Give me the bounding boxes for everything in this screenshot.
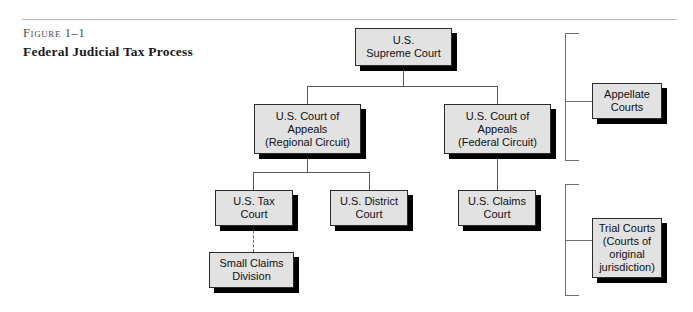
edge-trial-bus — [253, 172, 369, 173]
header-divider — [22, 19, 677, 20]
edge-bus-to-tax-court — [253, 172, 254, 190]
figure-page: Figure 1–1 Federal Judicial Tax Process … — [0, 0, 693, 312]
bracket-stub-trial-courts — [565, 240, 592, 241]
bracket-appellate-courts — [565, 33, 579, 161]
node-label: U.S. Court of Appeals (Federal Circuit) — [455, 110, 540, 149]
node-label: U.S. Claims Court — [465, 195, 529, 221]
edge-tax-to-small-claims — [253, 226, 254, 252]
node-appeals-regional[interactable]: U.S. Court of Appeals (Regional Circuit) — [254, 104, 361, 154]
node-label: U.S. Tax Court — [230, 195, 277, 221]
figure-number: Figure 1–1 — [23, 26, 85, 41]
node-supreme-court[interactable]: U.S. Supreme Court — [355, 28, 452, 66]
edge-bus-to-district-court — [369, 172, 370, 190]
figure-title: Federal Judicial Tax Process — [23, 44, 193, 60]
node-tax-court[interactable]: U.S. Tax Court — [215, 190, 293, 226]
node-label: Small Claims Division — [216, 257, 286, 283]
node-label: U.S. District Court — [337, 195, 401, 221]
node-label: U.S. Supreme Court — [363, 34, 444, 60]
bracket-stub-appellate-courts — [565, 101, 592, 102]
node-label: U.S. Court of Appeals (Regional Circuit) — [262, 110, 353, 149]
group-label-trial-courts[interactable]: Trial Courts (Courts of original jurisdi… — [592, 218, 662, 278]
node-appeals-federal[interactable]: U.S. Court of Appeals (Federal Circuit) — [444, 104, 551, 154]
group-label: Trial Courts (Courts of original jurisdi… — [596, 222, 658, 274]
edge-bus-to-appeals-regional — [307, 86, 308, 104]
group-label: Appellate Courts — [601, 88, 653, 114]
edge-appeals-bus — [307, 86, 498, 87]
node-small-claims-division[interactable]: Small Claims Division — [209, 252, 294, 288]
node-claims-court[interactable]: U.S. Claims Court — [458, 190, 536, 226]
node-district-court[interactable]: U.S. District Court — [330, 190, 408, 226]
edge-federal-to-claims-court — [497, 154, 498, 190]
edge-bus-to-appeals-federal — [497, 86, 498, 104]
edge-regional-to-bus — [307, 154, 308, 172]
group-label-appellate-courts[interactable]: Appellate Courts — [592, 83, 662, 119]
edge-supreme-to-bus — [403, 66, 404, 86]
